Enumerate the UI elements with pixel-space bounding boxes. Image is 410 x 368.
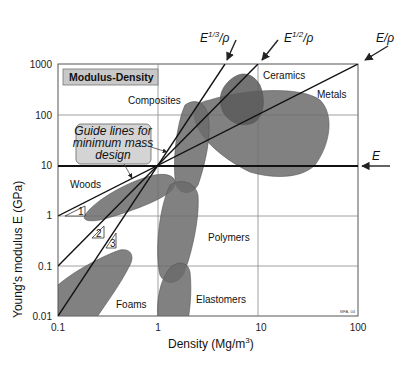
- x-axis-title: Density (Mg/m3): [168, 336, 254, 351]
- svg-text:10: 10: [255, 322, 267, 333]
- guide-label-e: E: [372, 149, 381, 163]
- svg-text:1: 1: [46, 210, 52, 221]
- guide-label-e12: E1/2/ρ: [284, 30, 313, 45]
- svg-text:1000: 1000: [30, 59, 53, 70]
- y-tick-labels: 1000 100 10 1 0.1 0.01: [30, 59, 53, 322]
- triangle-label-3: 3: [110, 238, 116, 249]
- label-elastomers: Elastomers: [196, 294, 246, 305]
- label-metals: Metals: [317, 89, 346, 100]
- label-polymers: Polymers: [208, 232, 250, 243]
- label-foams: Foams: [116, 299, 147, 310]
- svg-text:0.1: 0.1: [51, 322, 65, 333]
- arrow-e12-icon: [262, 40, 278, 60]
- label-ceramics: Ceramics: [263, 70, 305, 81]
- svg-text:0.1: 0.1: [38, 261, 52, 272]
- ashby-chart: 1 2 3 Modulus-Density Guide lines for mi…: [0, 0, 410, 368]
- triangle-label-1: 1: [78, 206, 84, 217]
- svg-text:1: 1: [155, 322, 161, 333]
- chart-title: Modulus-Density: [69, 71, 154, 83]
- label-woods: Woods: [70, 179, 101, 190]
- chart-title-box: Modulus-Density: [63, 69, 158, 85]
- credit-text: MFA, 04: [340, 309, 356, 314]
- svg-text:100: 100: [350, 322, 367, 333]
- guide-label-e-rho: E/ρ: [376, 31, 394, 45]
- y-axis-title: Young's modulus E (GPa): [11, 181, 25, 318]
- svg-text:0.01: 0.01: [33, 311, 53, 322]
- triangle-label-2: 2: [96, 228, 102, 239]
- arrow-e-rho-icon: [365, 46, 388, 60]
- x-tick-labels: 0.1 1 10 100: [51, 322, 367, 333]
- guide-note-line-3: design: [95, 148, 131, 162]
- guide-label-e13: E1/3/ρ: [200, 30, 229, 45]
- svg-text:100: 100: [35, 110, 52, 121]
- svg-text:10: 10: [41, 160, 53, 171]
- label-composites: Composites: [128, 95, 181, 106]
